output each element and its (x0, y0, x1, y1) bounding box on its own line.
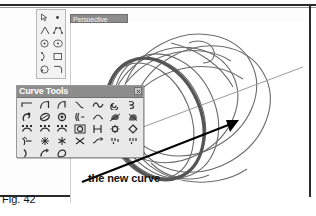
curve-wave-icon (92, 100, 104, 110)
toolbar-button-polyline-icon[interactable] (38, 24, 51, 37)
curve-tool-curve-edit-icon[interactable] (71, 111, 89, 123)
figure-frame-top-border (0, 4, 316, 6)
curve-tool-curve-diamond-icon[interactable] (124, 123, 142, 135)
curve-tool-curve-join-icon[interactable] (89, 135, 107, 147)
curve-tool-sketch-curve-icon[interactable] (18, 111, 36, 123)
curve-tools-palette[interactable]: Curve Tools (16, 85, 144, 158)
curve-tool-conic-icon[interactable] (36, 111, 54, 123)
curve-tool-polyline-icon[interactable] (36, 99, 54, 111)
curve-tool-curve-planar-icon[interactable] (53, 147, 71, 159)
viewport-title-bar[interactable]: Perspective (70, 14, 128, 23)
circle-center-icon (40, 39, 49, 48)
close-icon[interactable] (134, 87, 142, 95)
curve-fillet-icon (53, 65, 63, 74)
curve-tool-curve-blend-icon[interactable] (89, 111, 107, 123)
curve-join-icon (92, 136, 104, 146)
circle-diameter-icon (40, 65, 49, 74)
curve-tools-title-bar[interactable]: Curve Tools (17, 86, 143, 98)
curve-simplify-icon (127, 136, 139, 146)
toolbar-button-curve-fillet-icon[interactable] (51, 63, 64, 76)
rectangle-icon (53, 52, 63, 61)
curve-tool-circle-point-icon[interactable] (53, 111, 71, 123)
curve-tool-curve-through-points-icon[interactable] (71, 99, 89, 111)
toolbar-button-point-icon[interactable] (51, 11, 64, 24)
curve-split-icon (56, 136, 68, 146)
main-toolbar[interactable] (36, 9, 66, 79)
curve-tool-rebuild-curve-icon[interactable] (36, 123, 54, 135)
curve-from-object-icon (109, 112, 121, 122)
polyline-icon (39, 100, 51, 110)
helix-icon (127, 100, 139, 110)
curve-match-icon (109, 136, 121, 146)
curve-tools-title: Curve Tools (19, 86, 68, 97)
curve-tool-curve-wave-icon[interactable] (89, 99, 107, 111)
curve-tool-curve-match-icon[interactable] (107, 135, 125, 147)
curve-trim-icon (74, 136, 86, 146)
fit-curve-icon (21, 124, 33, 134)
toolbar-button-circle-diameter-icon[interactable] (38, 63, 51, 76)
sketch-curve-icon (21, 112, 33, 122)
curve-tool-helix-icon[interactable] (124, 99, 142, 111)
curve-tool-curve-simplify-icon[interactable] (124, 135, 142, 147)
curve-through-points-icon (74, 100, 86, 110)
curve-tool-extend-curve-icon[interactable] (18, 135, 36, 147)
figure-container: Perspective (0, 0, 316, 216)
curve-tool-curve-boolean-icon[interactable] (71, 123, 89, 135)
curve-arc-blend-icon (39, 148, 51, 158)
arc-icon (40, 52, 49, 61)
curve-tools-button-grid[interactable] (17, 98, 143, 160)
curve-tool-curve-split-icon[interactable] (53, 135, 71, 147)
curve-radial-icon (109, 124, 121, 134)
toolbar-button-ellipse-icon[interactable] (51, 37, 64, 50)
callout-label: the new curve (88, 172, 160, 184)
curve-tool-refit-curve-icon[interactable] (53, 123, 71, 135)
curve-tool-curve-project-icon[interactable] (124, 111, 142, 123)
select-arrow-icon (40, 13, 49, 22)
toolbar-button-circle-center-icon[interactable] (38, 37, 51, 50)
toolbar-button-arc-icon[interactable] (38, 50, 51, 63)
offset-curve-icon (92, 124, 104, 134)
toolbar-button-rectangle-icon[interactable] (51, 50, 64, 63)
control-point-curve-icon (53, 26, 63, 35)
polyline-segment-icon (56, 100, 68, 110)
curve-tool-polyline-segment-icon[interactable] (53, 99, 71, 111)
curve-edit-icon (74, 112, 86, 122)
extend-curve-icon (21, 136, 33, 146)
curve-boolean-icon (74, 124, 86, 134)
curve-tool-curve-arc-blend-icon[interactable] (36, 147, 54, 159)
toolbar-button-select-arrow-icon[interactable] (38, 11, 51, 24)
curve-diamond-icon (127, 124, 139, 134)
ellipse-icon (53, 39, 63, 48)
curve-planar-icon (56, 148, 68, 158)
polyline-icon (40, 26, 50, 35)
curve-tangent-icon (21, 148, 33, 158)
curve-tool-curve-trim-icon[interactable] (71, 135, 89, 147)
refit-curve-icon (56, 124, 68, 134)
curve-node-icon (39, 136, 51, 146)
curve-tool-curve-from-object-icon[interactable] (107, 111, 125, 123)
curve-tool-spiral-icon[interactable] (107, 99, 125, 111)
point-icon (53, 13, 62, 22)
curve-blend-icon (92, 112, 104, 122)
circle-point-icon (56, 112, 68, 122)
rebuild-curve-icon (39, 124, 51, 134)
curve-tool-line-icon[interactable] (18, 99, 36, 111)
curve-project-icon (127, 112, 139, 122)
curve-tool-curve-tangent-icon[interactable] (18, 147, 36, 159)
curve-tool-curve-radial-icon[interactable] (107, 123, 125, 135)
toolbar-button-control-point-curve-icon[interactable] (51, 24, 64, 37)
conic-icon (39, 112, 51, 122)
figure-caption: Fig. 42 (2, 193, 36, 205)
spiral-icon (109, 100, 121, 110)
curve-tool-fit-curve-icon[interactable] (18, 123, 36, 135)
curve-tool-curve-node-icon[interactable] (36, 135, 54, 147)
line-icon (21, 100, 33, 110)
curve-tool-offset-curve-icon[interactable] (89, 123, 107, 135)
